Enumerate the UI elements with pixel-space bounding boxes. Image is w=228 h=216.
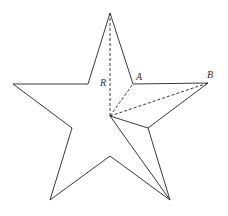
star-diagram: R A B bbox=[0, 0, 228, 216]
star-outline bbox=[13, 13, 208, 200]
label-R: R bbox=[99, 77, 106, 88]
dashed-center-to-B bbox=[110, 83, 208, 116]
fold-center-to-bottom-right bbox=[110, 116, 170, 200]
fold-center-to-inner-right bbox=[110, 116, 148, 128]
dashed-center-to-A bbox=[110, 84, 133, 116]
label-B: B bbox=[207, 69, 213, 80]
label-A: A bbox=[135, 71, 143, 82]
